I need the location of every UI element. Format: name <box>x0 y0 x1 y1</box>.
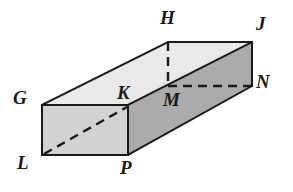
vertex-label-m: M <box>163 90 180 109</box>
vertex-label-k: K <box>117 83 130 102</box>
vertex-label-n: N <box>256 72 270 91</box>
prism-drawing <box>0 0 293 192</box>
vertex-label-l: L <box>17 153 29 172</box>
vertex-label-p: P <box>120 158 132 177</box>
vertex-label-j: J <box>256 14 266 33</box>
vertex-label-h: H <box>160 8 175 27</box>
geometry-figure: GHJKLMNP <box>0 0 293 192</box>
vertex-label-g: G <box>13 88 27 107</box>
